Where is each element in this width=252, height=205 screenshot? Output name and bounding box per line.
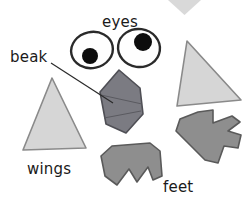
left-eye	[68, 28, 117, 72]
right-foot-shape	[176, 110, 241, 163]
diagram-canvas: eyes beak wings feet	[0, 0, 252, 205]
left-wing-shape	[23, 78, 86, 150]
top-arrow-marker	[168, 0, 201, 15]
right-eye	[116, 26, 163, 69]
label-feet: feet	[163, 180, 193, 195]
right-wing-shape	[177, 41, 241, 106]
bottom-foot-shape	[101, 143, 162, 185]
label-wings: wings	[27, 162, 71, 177]
left-eye-pupil	[82, 48, 98, 64]
beak-shape	[100, 70, 143, 133]
right-eye-pupil	[134, 33, 152, 51]
label-eyes: eyes	[102, 15, 138, 30]
label-beak: beak	[10, 50, 47, 65]
